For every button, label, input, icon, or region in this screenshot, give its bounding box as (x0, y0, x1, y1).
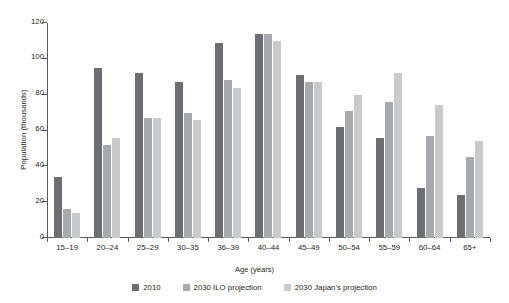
bar (193, 120, 201, 238)
x-label-anchor: 25–29 (148, 237, 149, 238)
x-tick-mark (248, 238, 249, 242)
bar (63, 209, 71, 238)
bar (175, 82, 183, 238)
bar (233, 88, 241, 239)
bar (435, 105, 443, 238)
x-label-anchor: 30–35 (188, 237, 189, 238)
bar (94, 68, 102, 238)
bar-group (248, 23, 288, 238)
legend-swatch (132, 284, 139, 291)
x-tick-mark (87, 238, 88, 242)
bar (264, 34, 272, 238)
bar (475, 141, 483, 238)
bar (112, 138, 120, 238)
x-axis-title: Age (years) (0, 265, 509, 274)
bar-chart-figure: Population (thousands) 020406080100120 1… (0, 0, 509, 303)
legend-label: 2030 ILO projection (194, 283, 262, 292)
bar-group (87, 23, 127, 238)
x-tick-mark (208, 238, 209, 242)
bar (385, 102, 393, 238)
y-tick-label: 0 (40, 232, 44, 241)
legend-label: 2010 (143, 283, 160, 292)
bar (255, 34, 263, 238)
x-label-anchor: 36–39 (228, 237, 229, 238)
bar (394, 73, 402, 238)
bar-group (168, 23, 208, 238)
bar (224, 80, 232, 238)
bar (144, 118, 152, 238)
bar-group (409, 23, 449, 238)
bar-group (128, 23, 168, 238)
x-tick-mark (168, 238, 169, 242)
x-label-anchor: 65+ (470, 237, 471, 238)
x-tick-mark (369, 238, 370, 242)
bar-group (47, 23, 87, 238)
x-tick-mark (329, 238, 330, 242)
legend-item: 2030 Japan's projection (284, 283, 377, 292)
bar (305, 82, 313, 238)
bar (417, 188, 425, 238)
x-tick-label: 65+ (440, 243, 500, 252)
x-tick-mark (128, 238, 129, 242)
bar-group (329, 23, 369, 238)
legend-item: 2030 ILO projection (183, 283, 262, 292)
plot-area: 020406080100120 15–1920–2425–2930–3536–3… (47, 23, 490, 238)
y-tick-label: 40 (35, 160, 44, 169)
y-tick-label: 80 (35, 88, 44, 97)
x-label-anchor: 50–54 (349, 237, 350, 238)
x-tick-mark (47, 238, 48, 242)
bar (54, 177, 62, 238)
bar-group (289, 23, 329, 238)
legend-label: 2030 Japan's projection (295, 283, 377, 292)
bar (314, 82, 322, 238)
bar (466, 157, 474, 238)
x-label-anchor: 15–19 (67, 237, 68, 238)
x-label-anchor: 40–44 (269, 237, 270, 238)
bar-group (369, 23, 409, 238)
legend-item: 2010 (132, 283, 160, 292)
bar (103, 145, 111, 238)
x-label-anchor: 20–24 (107, 237, 108, 238)
legend-swatch (284, 284, 291, 291)
y-tick-label: 100 (31, 52, 44, 61)
x-tick-mark (490, 238, 491, 242)
bar (376, 138, 384, 238)
bar (345, 111, 353, 238)
y-tick-label: 60 (35, 124, 44, 133)
bar (215, 43, 223, 238)
bar (153, 118, 161, 238)
bar (354, 95, 362, 238)
x-tick-mark (289, 238, 290, 242)
legend-swatch (183, 284, 190, 291)
bar (457, 195, 465, 238)
bar (336, 127, 344, 238)
y-tick-label: 20 (35, 196, 44, 205)
y-tick-label: 120 (31, 17, 44, 26)
bar-group (208, 23, 248, 238)
bar (184, 113, 192, 238)
y-axis-title: Population (thousands) (19, 55, 28, 205)
chart-legend: 20102030 ILO projection2030 Japan's proj… (0, 283, 509, 292)
x-tick-mark (409, 238, 410, 242)
x-tick-mark (450, 238, 451, 242)
bar (72, 213, 80, 238)
bar (426, 136, 434, 238)
bar (273, 41, 281, 238)
bar-group (450, 23, 490, 238)
bar (135, 73, 143, 238)
x-label-anchor: 55–59 (389, 237, 390, 238)
x-label-anchor: 45–49 (309, 237, 310, 238)
x-label-anchor: 60–64 (430, 237, 431, 238)
bar (296, 75, 304, 238)
